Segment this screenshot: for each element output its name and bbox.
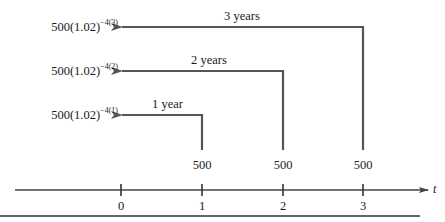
discount-path-3 <box>122 27 363 150</box>
payment-label-1: 500 <box>193 158 212 172</box>
present-value-label-3: 500(1.02)−4(3) <box>51 18 118 34</box>
tick-label-1: 1 <box>199 199 205 213</box>
time-diagram: 3 years 500(1.02)−4(3) 2 years 500(1.02)… <box>0 0 445 222</box>
present-value-label-1: 500(1.02)−4(1) <box>51 106 118 122</box>
payment-label-2: 500 <box>274 158 293 172</box>
payment-label-3: 500 <box>354 158 373 172</box>
arrow-1-year: 1 year 500(1.02)−4(1) <box>51 97 202 150</box>
discount-path-1 <box>122 115 202 150</box>
tick-label-0: 0 <box>118 199 124 213</box>
duration-label-2: 2 years <box>191 53 227 67</box>
axis-variable-label: t <box>433 182 437 196</box>
arrow-3-years: 3 years 500(1.02)−4(3) <box>51 9 363 150</box>
time-axis: 0 1 2 3 t <box>15 182 437 213</box>
duration-label-1: 1 year <box>152 97 184 111</box>
duration-label-3: 3 years <box>224 9 260 23</box>
tick-label-3: 3 <box>360 199 366 213</box>
tick-label-2: 2 <box>280 199 286 213</box>
present-value-label-2: 500(1.02)−4(2) <box>51 62 118 78</box>
